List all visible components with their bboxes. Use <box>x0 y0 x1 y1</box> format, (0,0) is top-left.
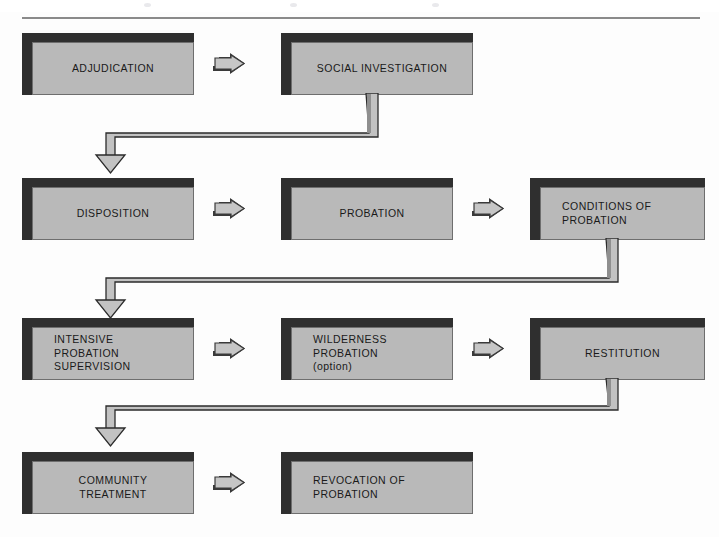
node-label: RESTITUTION <box>540 327 705 380</box>
node-label: REVOCATION OF PROBATION <box>291 461 473 514</box>
flowchart-page: ADJUDICATION SOCIAL INVESTIGATION DISPOS… <box>0 0 719 537</box>
header-rule <box>22 17 700 19</box>
ribbon-connector-1 <box>88 93 388 175</box>
ribbon-connector-3 <box>88 378 628 460</box>
node-wilderness-probation: WILDERNESS PROBATION (option) <box>281 318 453 380</box>
node-disposition: DISPOSITION <box>22 178 194 240</box>
node-label: CONDITIONS OF PROBATION <box>540 187 705 240</box>
node-label: SOCIAL INVESTIGATION <box>291 42 473 95</box>
node-intensive-probation-supervision: INTENSIVE PROBATION SUPERVISION <box>22 318 194 380</box>
node-community-treatment: COMMUNITY TREATMENT <box>22 452 194 514</box>
right-block-arrow-icon <box>211 471 251 493</box>
node-label: ADJUDICATION <box>32 42 194 95</box>
node-revocation-of-probation: REVOCATION OF PROBATION <box>281 452 473 514</box>
node-label: PROBATION <box>291 187 453 240</box>
node-probation: PROBATION <box>281 178 453 240</box>
node-conditions-of-probation: CONDITIONS OF PROBATION <box>530 178 705 240</box>
right-block-arrow-icon <box>211 337 251 359</box>
node-label: INTENSIVE PROBATION SUPERVISION <box>32 327 194 380</box>
node-label: COMMUNITY TREATMENT <box>32 461 194 514</box>
node-label: DISPOSITION <box>32 187 194 240</box>
scan-noise <box>0 0 719 12</box>
right-block-arrow-icon <box>470 197 510 219</box>
ribbon-connector-2 <box>88 238 628 320</box>
node-label: WILDERNESS PROBATION (option) <box>291 327 453 380</box>
right-block-arrow-icon <box>211 52 251 74</box>
node-adjudication: ADJUDICATION <box>22 33 194 95</box>
right-block-arrow-icon <box>470 337 510 359</box>
node-restitution: RESTITUTION <box>530 318 705 380</box>
right-block-arrow-icon <box>211 197 251 219</box>
node-social-investigation: SOCIAL INVESTIGATION <box>281 33 473 95</box>
